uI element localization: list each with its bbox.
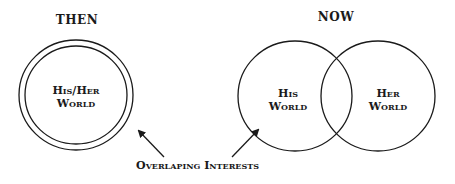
his-label-line2: World [255, 100, 321, 113]
her-label-line2: World [355, 100, 421, 113]
arrow-to-then-icon [139, 131, 164, 157]
arrow-to-now-icon [232, 130, 258, 157]
then-title: THEN [46, 13, 108, 27]
her-label-line1: Her [355, 87, 421, 100]
then-label-line2: World [36, 97, 116, 110]
now-his-label: His World [255, 87, 321, 113]
then-label-line1: His/Her [36, 84, 116, 97]
now-title: NOW [305, 10, 367, 24]
then-circle-label: His/Her World [36, 84, 116, 110]
overlapping-interests-label: Overlaping Interests [110, 159, 285, 172]
now-her-label: Her World [355, 87, 421, 113]
his-label-line1: His [255, 87, 321, 100]
